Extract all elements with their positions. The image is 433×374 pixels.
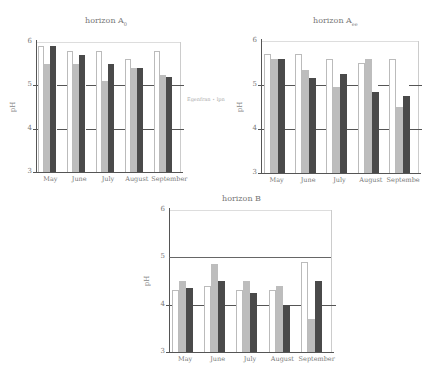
chart-title: horizon B [222,194,261,203]
bar-september-series-2 [308,319,315,352]
bar-july-series-3 [250,293,257,352]
y-axis [169,208,170,352]
y-tick-label: 3 [155,347,165,355]
x-tick-label: May [169,355,201,363]
x-tick-label: June [201,355,233,363]
bar-july-series-1 [236,290,243,352]
bar-august-series-2 [276,286,283,352]
y-tick-label: 4 [155,300,165,308]
bar-september-series-1 [301,262,308,352]
plot-frame-right [331,210,332,352]
bar-june-series-3 [218,281,225,352]
plot-frame-top [169,210,331,211]
bar-june-series-1 [204,286,211,352]
bar-august-series-3 [283,305,290,352]
bar-september-series-3 [315,281,322,352]
y-tick-label: 6 [155,205,165,213]
x-tick-label: August [266,355,298,363]
x-tick-label: September [299,355,331,363]
chart-title-text: horizon B [222,194,261,203]
gridline-4-segment [322,305,336,306]
bar-may-series-1 [172,290,179,352]
gridline-5 [169,257,331,258]
x-tick-label: July [234,355,266,363]
y-axis-label: pH [143,276,151,287]
bar-june-series-2 [211,264,218,352]
bar-august-series-1 [269,290,276,352]
x-axis [166,352,334,353]
y-tick-label: 5 [155,252,165,260]
bar-july-series-2 [243,281,250,352]
bar-may-series-2 [179,281,186,352]
chart-horizon-b: horizon BpH3456MayJuneJulyAugustSeptembe… [0,0,433,374]
bar-may-series-3 [186,288,193,352]
